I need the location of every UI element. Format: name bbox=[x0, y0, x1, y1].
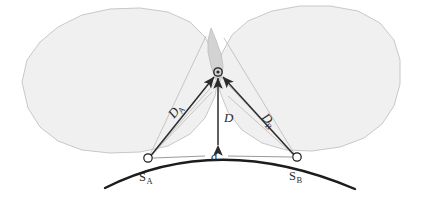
label-altitude: D bbox=[223, 110, 234, 125]
baseline-segment-right bbox=[228, 156, 292, 157]
target-point-core bbox=[216, 70, 219, 73]
diagram-canvas: D A D B D d S A S B bbox=[0, 0, 425, 197]
coverage-blob-right bbox=[218, 6, 400, 151]
label-station-b-subscript: B bbox=[297, 175, 303, 185]
label-station-a: S bbox=[139, 170, 146, 184]
baseline-segment-left bbox=[153, 156, 205, 158]
geometry-diagram-figure: D A D B D d S A S B bbox=[0, 0, 425, 197]
station-b-marker bbox=[293, 153, 301, 161]
coverage-blob-left bbox=[22, 8, 219, 153]
station-a-marker bbox=[144, 154, 152, 162]
label-station-b: S bbox=[289, 169, 296, 183]
label-baseline: d bbox=[211, 150, 218, 164]
label-station-a-subscript: A bbox=[147, 176, 154, 186]
